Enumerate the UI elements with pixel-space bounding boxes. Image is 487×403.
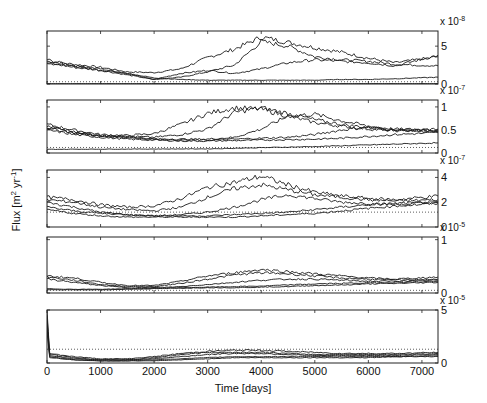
series-line-run1 bbox=[47, 37, 438, 73]
series-line-run4 bbox=[47, 201, 438, 217]
y-multiplier-label: x 10-7 bbox=[440, 84, 465, 96]
x-tick-label: 3000 bbox=[195, 365, 219, 377]
figure: 05x 10-800.51x 10-7024x 10-701x 10-505x … bbox=[0, 0, 487, 403]
x-axis-label: Time [days] bbox=[215, 382, 271, 394]
x-tick-label: 0 bbox=[44, 365, 50, 377]
y-tick-label: 0 bbox=[441, 357, 447, 369]
panel-frame bbox=[47, 100, 438, 153]
y-tick-label: 1 bbox=[441, 101, 447, 113]
y-multiplier-label: x 10-8 bbox=[440, 15, 465, 27]
y-multiplier-label: x 10-5 bbox=[440, 221, 465, 233]
series-line-run2 bbox=[47, 107, 438, 138]
x-tick-label: 5000 bbox=[303, 365, 327, 377]
x-tick-label: 6000 bbox=[356, 365, 380, 377]
y-tick-label: 5 bbox=[441, 40, 447, 52]
panel-1: 05x 10-8 bbox=[47, 15, 465, 90]
x-tick-label: 1000 bbox=[88, 365, 112, 377]
panel-5: 05x 10-5 bbox=[47, 294, 465, 369]
series-line-run2 bbox=[47, 40, 438, 80]
x-tick-label: 2000 bbox=[142, 365, 166, 377]
y-tick-label: 2 bbox=[441, 196, 447, 208]
series-line-run6 bbox=[47, 142, 438, 149]
x-tick-label: 4000 bbox=[249, 365, 273, 377]
panel-4: 01x 10-5 bbox=[47, 221, 465, 299]
panels: 05x 10-800.51x 10-7024x 10-701x 10-505x … bbox=[47, 15, 465, 369]
y-tick-label: 0.5 bbox=[441, 124, 456, 136]
y-multiplier-label: x 10-7 bbox=[440, 154, 465, 166]
y-tick-label: 4 bbox=[441, 171, 447, 183]
x-tick-label: 7000 bbox=[410, 365, 434, 377]
y-multiplier-label: x 10-5 bbox=[440, 294, 465, 306]
y-axis-label: Flux [m2 yr-1] bbox=[9, 169, 22, 232]
panel-3: 024x 10-7 bbox=[47, 154, 465, 233]
series-line-run1 bbox=[47, 106, 438, 136]
series-line-run3 bbox=[47, 55, 438, 79]
series-line-run4 bbox=[47, 281, 438, 289]
panel-2: 00.51x 10-7 bbox=[47, 84, 465, 159]
series-line-run2 bbox=[47, 183, 438, 212]
series-line-run2 bbox=[47, 272, 438, 287]
x-axis: 01000200030004000500060007000 bbox=[44, 365, 434, 377]
y-tick-label: 1 bbox=[441, 234, 447, 246]
